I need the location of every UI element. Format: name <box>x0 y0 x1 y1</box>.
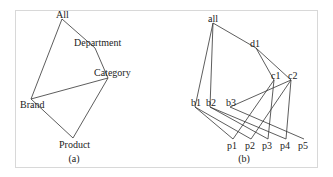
node-label-b-p5: p5 <box>298 140 308 151</box>
edge-a-Brand-Category <box>31 78 108 99</box>
edge-b-b1-p1 <box>195 107 233 139</box>
node-label-b-c1: c1 <box>271 70 280 81</box>
node-label-b-p4: p4 <box>280 140 290 151</box>
edge-b-b1-p2 <box>195 107 251 139</box>
edge-b-b3-p5 <box>230 107 304 139</box>
node-label-b-b3: b3 <box>226 97 236 108</box>
node-label-b-b2: b2 <box>206 97 216 108</box>
panel-caption-b: (b) <box>238 153 250 165</box>
lattice-diagram: AllDepartmentCategoryBrandProductalld1c1… <box>0 0 333 177</box>
node-label-b-c2: c2 <box>288 70 297 81</box>
node-label-b-d1: d1 <box>250 38 260 49</box>
node-label-a-Category: Category <box>94 67 131 78</box>
edge-a-Product-Category <box>73 78 108 138</box>
edge-b-c2-p4 <box>286 80 291 139</box>
edge-b-b2-p4 <box>210 107 286 139</box>
edge-b-b2-p3 <box>210 107 268 139</box>
panel-caption-a: (a) <box>68 153 79 165</box>
node-label-b-p3: p3 <box>262 140 272 151</box>
node-label-a-Product: Product <box>59 139 90 150</box>
edge-a-All-Brand <box>31 19 62 99</box>
node-label-b-all: all <box>208 13 218 24</box>
edge-b-c1-p1 <box>233 80 274 139</box>
node-label-b-p1: p1 <box>227 140 237 151</box>
node-label-a-Brand: Brand <box>20 99 44 110</box>
node-label-b-b1: b1 <box>191 97 201 108</box>
node-label-a-All: All <box>56 9 69 20</box>
node-label-b-p2: p2 <box>245 140 255 151</box>
node-label-a-Department: Department <box>74 37 121 48</box>
